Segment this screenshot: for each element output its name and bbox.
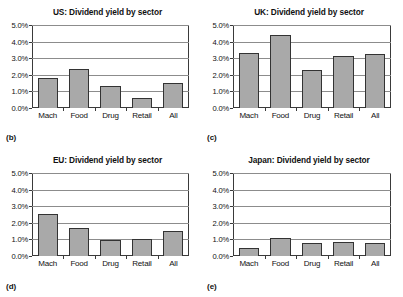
y-tick-label: 1.0% [212,87,229,96]
bar-retail [132,239,152,256]
y-tick-label: 4.0% [11,185,28,194]
bar-mach [38,78,58,108]
bar-slot [265,25,297,108]
bar-slot [63,25,94,108]
x-axis-label: Mach [233,259,265,268]
y-tick-label: 1.0% [212,235,229,244]
bar-slot [158,173,189,256]
bar-all [163,231,183,256]
x-axis-label: Drug [95,111,126,120]
bar-slot [158,25,189,108]
bar-all [365,243,385,256]
bar-retail [333,56,353,108]
bar-drug [100,86,120,108]
y-tick-label: 0.0% [11,252,28,261]
x-axis-label: Food [63,111,94,120]
panel-letter-c: (c) [207,133,217,142]
bar-drug [302,243,322,256]
bar-slot [265,173,297,256]
y-tick-label: 3.0% [212,54,229,63]
y-tick-label: 2.0% [11,218,28,227]
bar-slot [32,173,63,256]
y-tick-label: 5.0% [11,21,28,30]
x-axis-labels-us: MachFoodDrugRetailAll [32,111,189,120]
bar-mach [239,53,259,108]
bar-slot [95,173,126,256]
plot-area-eu: 5.0%4.0%3.0%2.0%1.0%0.0% MachFoodDrugRet… [32,173,189,256]
bar-series-uk [233,25,391,108]
chart-title-us: US: Dividend yield by sector [0,0,201,19]
x-axis-labels-eu: MachFoodDrugRetailAll [32,259,189,268]
y-tick-label: 0.0% [212,252,229,261]
y-tick-label: 4.0% [212,185,229,194]
plot-area-us: 5.0%4.0%3.0%2.0%1.0%0.0% MachFoodDrugRet… [32,25,189,108]
y-tick-label: 2.0% [11,70,28,79]
x-axis-label: Food [265,111,297,120]
bar-series-eu [32,173,189,256]
x-axis-label: Mach [233,111,265,120]
y-tick-label: 2.0% [212,218,229,227]
x-axis-label: All [158,259,189,268]
panel-letter-d: (d) [6,282,16,291]
plot-area-japan: 5.0%4.0%3.0%2.0%1.0%0.0% MachFoodDrugRet… [233,173,391,256]
bar-drug [100,240,120,256]
bar-drug [302,70,322,108]
bar-mach [239,248,259,256]
y-tick-label: 3.0% [11,54,28,63]
x-axis-label: Retail [328,259,360,268]
bar-mach [38,214,58,256]
y-tick-label: 0.0% [11,104,28,113]
chart-panel-eu: EU: Dividend yield by sector 5.0%4.0%3.0… [0,148,201,297]
bar-slot [233,173,265,256]
chart-title-uk: UK: Dividend yield by sector [201,0,403,19]
chart-panel-uk: UK: Dividend yield by sector 5.0%4.0%3.0… [201,0,403,148]
bar-slot [328,25,360,108]
y-tick-label: 3.0% [11,202,28,211]
bar-slot [296,25,328,108]
y-tick-label: 4.0% [212,37,229,46]
x-axis-label: Food [63,259,94,268]
bar-food [270,35,290,108]
panel-letter-b: (b) [6,133,16,142]
x-axis-label: Retail [328,111,360,120]
bar-slot [32,25,63,108]
x-axis-label: Drug [95,259,126,268]
bar-retail [333,242,353,256]
bar-slot [126,173,157,256]
y-tick-label: 3.0% [212,202,229,211]
x-axis-labels-uk: MachFoodDrugRetailAll [233,111,391,120]
y-tick-label: 4.0% [11,37,28,46]
plot-area-uk: 5.0%4.0%3.0%2.0%1.0%0.0% MachFoodDrugRet… [233,25,391,108]
x-axis-label: Mach [32,259,63,268]
bar-slot [126,25,157,108]
y-tick-label: 5.0% [212,21,229,30]
bar-retail [132,98,152,108]
y-tick-label: 1.0% [11,235,28,244]
bar-food [270,238,290,256]
dividend-yield-figure: US: Dividend yield by sector 5.0%4.0%3.0… [0,0,403,297]
bar-slot [328,173,360,256]
bar-all [163,83,183,108]
x-axis-labels-japan: MachFoodDrugRetailAll [233,259,391,268]
chart-panel-japan: Japan: Dividend yield by sector 5.0%4.0%… [201,148,403,297]
x-axis-label: All [359,111,391,120]
x-axis-label: Retail [126,111,157,120]
bar-all [365,54,385,108]
bar-food [69,69,89,108]
chart-panel-us: US: Dividend yield by sector 5.0%4.0%3.0… [0,0,201,148]
y-tick-label: 5.0% [11,169,28,178]
y-tick-label: 0.0% [212,104,229,113]
panel-letter-e: (e) [207,282,217,291]
chart-title-eu: EU: Dividend yield by sector [0,148,201,167]
x-axis-label: Drug [296,259,328,268]
bar-slot [95,25,126,108]
bar-slot [233,25,265,108]
x-axis-label: Drug [296,111,328,120]
bar-slot [359,25,391,108]
x-axis-label: All [158,111,189,120]
bar-slot [63,173,94,256]
bar-series-japan [233,173,391,256]
x-axis-label: Retail [126,259,157,268]
x-axis-label: Mach [32,111,63,120]
bar-slot [359,173,391,256]
